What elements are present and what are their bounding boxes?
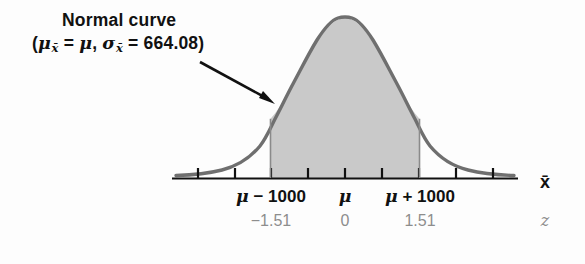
- mu-symbol: μ: [385, 186, 398, 206]
- sd-value: 664.08: [144, 33, 199, 53]
- x-tick-label-mu: μ: [339, 186, 352, 207]
- annotation-parameters: (μx̄ = μ, σx̄ = 664.08): [32, 33, 204, 55]
- mu-symbol: μ: [339, 186, 352, 206]
- plus-1000-text: + 1000: [398, 187, 455, 206]
- z-tick-label-negative: −1.51: [251, 212, 291, 230]
- x-tick-label-mu-plus-1000: μ + 1000: [385, 186, 455, 207]
- equals-sign-2: =: [123, 33, 144, 53]
- sigma-symbol: σ: [102, 33, 115, 53]
- mu-symbol: μ: [38, 33, 51, 53]
- xbar-subscript: x̄: [51, 41, 59, 55]
- mu-symbol: μ: [236, 186, 249, 206]
- comma-separator: ,: [92, 33, 102, 53]
- callout-arrow: [200, 62, 275, 104]
- annotation-title: Normal curve: [62, 10, 176, 31]
- z-tick-label-zero: 0: [341, 212, 350, 230]
- z-axis-name: z: [541, 211, 549, 230]
- axis-tick-marks: [198, 168, 493, 179]
- x-tick-label-mu-minus-1000: μ − 1000: [236, 186, 306, 207]
- minus-1000-text: − 1000: [249, 187, 306, 206]
- x-axis-name-xbar: x̄: [540, 172, 550, 193]
- mu-symbol-2: μ: [79, 33, 92, 53]
- shaded-probability-region: [271, 18, 420, 179]
- normal-curve-figure: Normal curve (μx̄ = μ, σx̄ = 664.08) μ −…: [0, 0, 585, 264]
- xbar-subscript-2: x̄: [115, 41, 123, 55]
- equals-sign: =: [59, 33, 80, 53]
- paren-close: ): [198, 33, 204, 53]
- z-tick-label-positive: 1.51: [404, 212, 435, 230]
